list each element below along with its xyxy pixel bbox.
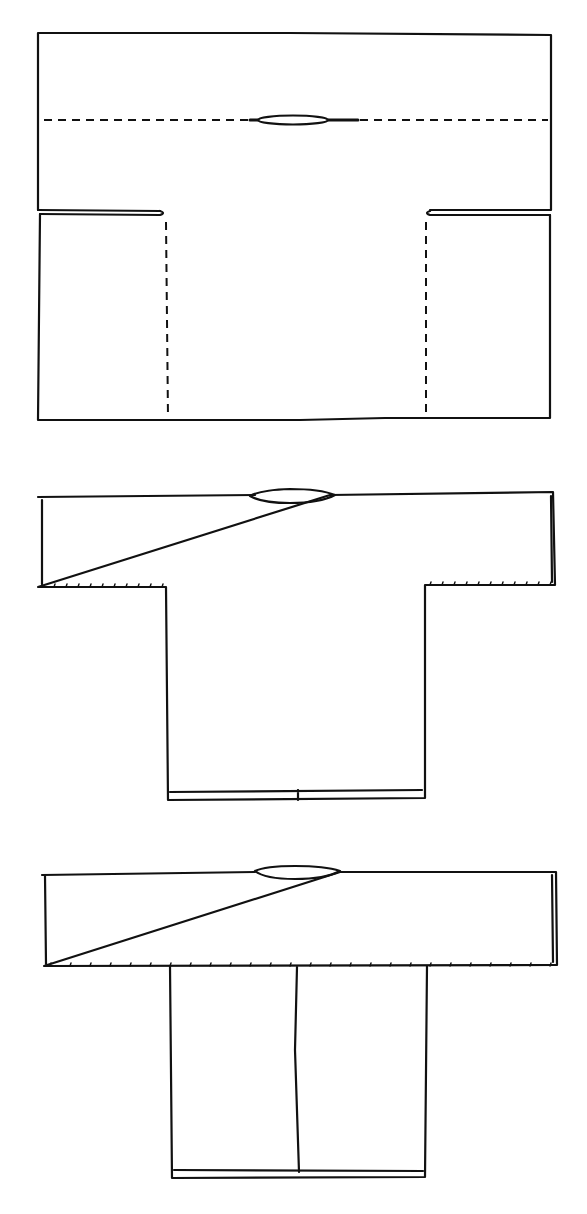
step-3-finished-garment <box>0 840 587 1214</box>
neck-opening <box>250 489 335 503</box>
neck-opening <box>258 116 328 125</box>
pattern-top-outline <box>38 33 551 210</box>
center-front-seam <box>295 967 299 1172</box>
left-sleeve-cuff <box>45 876 46 964</box>
right-sleeve-cuff <box>552 875 553 962</box>
garment-body-outline <box>42 872 557 966</box>
step-2-folded-tunic <box>0 470 587 820</box>
right-side-slit <box>427 211 550 215</box>
step-1-flat-pattern <box>0 0 587 440</box>
hem <box>174 1170 423 1171</box>
left-fold-line <box>166 222 168 418</box>
right-sleeve-cuff <box>551 496 552 582</box>
tunic-outline <box>38 492 555 800</box>
pattern-bottom-outline <box>38 214 550 420</box>
